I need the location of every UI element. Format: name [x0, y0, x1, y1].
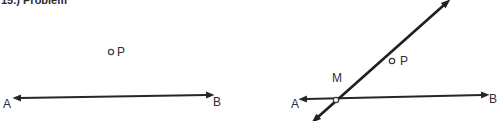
right-point-m-marker — [333, 97, 338, 102]
left-label-b: B — [213, 96, 221, 108]
left-point-p-marker — [108, 49, 113, 54]
diagram-canvas: 15.) Problem A B P — [0, 0, 504, 121]
right-label-b: B — [489, 93, 497, 105]
right-line-ab — [306, 95, 482, 99]
right-point-p-marker — [389, 58, 394, 63]
right-label-p: P — [400, 55, 408, 67]
figure-left: A B P — [0, 0, 252, 121]
figure-right-graphic — [252, 0, 504, 121]
right-label-m: M — [332, 72, 342, 84]
left-label-a: A — [3, 98, 11, 110]
left-line-ab — [20, 95, 207, 98]
figure-right: A B M P — [252, 0, 504, 121]
right-label-a: A — [291, 98, 299, 110]
left-label-p: P — [117, 46, 125, 58]
